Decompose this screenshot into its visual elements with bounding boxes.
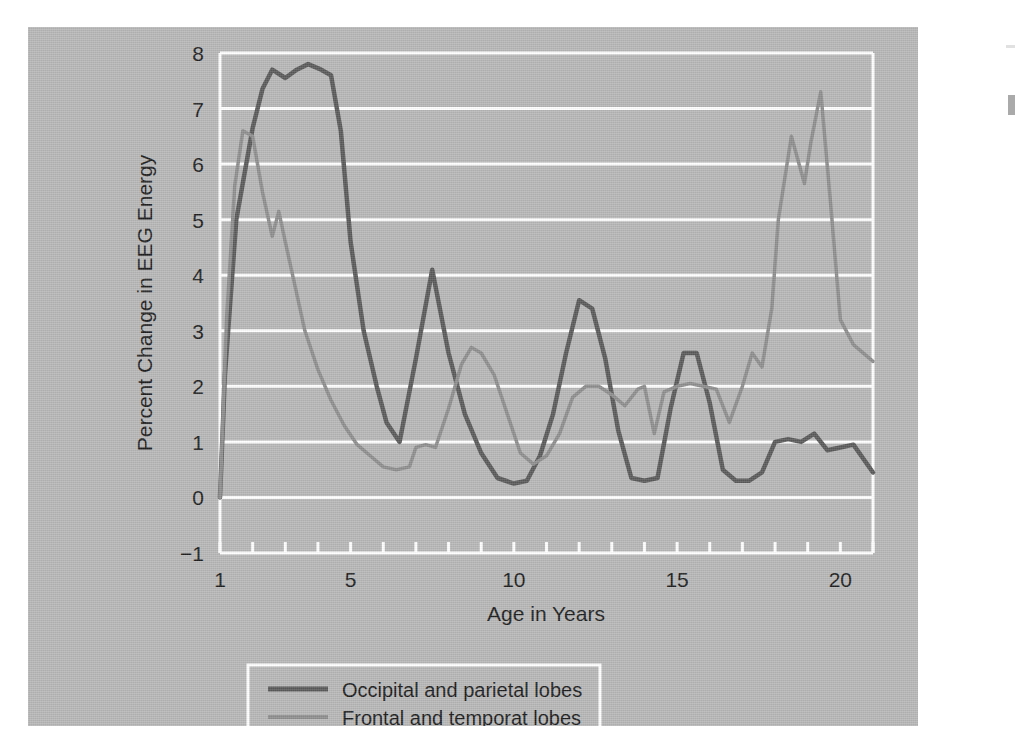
y-tick-label: 2: [192, 375, 204, 398]
x-axis-ticks: [220, 542, 873, 553]
plot-background: [220, 53, 873, 553]
x-tick-label: 20: [829, 568, 852, 591]
x-axis-tick-labels: 15101520: [214, 568, 852, 591]
x-tick-label: 5: [345, 568, 357, 591]
scanned-page: −1012345678 15101520 Age in Years Percen…: [0, 0, 1030, 743]
y-tick-label: 5: [192, 209, 204, 232]
eeg-line-chart: −1012345678 15101520 Age in Years Percen…: [28, 27, 918, 726]
x-axis-title: Age in Years: [487, 602, 605, 625]
figure-panel: −1012345678 15101520 Age in Years Percen…: [28, 27, 918, 726]
y-axis-title: Percent Change in EEG Energy: [133, 154, 156, 451]
legend-items: Occipital and parietal lobesFrontal and …: [268, 679, 582, 726]
y-tick-label: 6: [192, 153, 204, 176]
y-tick-label: −1: [180, 542, 204, 565]
y-tick-label: 4: [192, 264, 204, 287]
legend-label-2: Frontal and temporat lobes: [342, 707, 581, 726]
data-series-group: [220, 64, 873, 497]
y-axis-tick-labels: −1012345678: [180, 42, 204, 565]
y-tick-label: 1: [192, 431, 204, 454]
y-tick-label: 0: [192, 486, 204, 509]
scan-artifact-mark: [1006, 45, 1015, 48]
x-tick-label: 1: [214, 568, 226, 591]
legend-label-1: Occipital and parietal lobes: [342, 679, 582, 701]
x-tick-label: 10: [502, 568, 525, 591]
y-tick-label: 3: [192, 320, 204, 343]
y-tick-label: 8: [192, 42, 204, 65]
legend: Occipital and parietal lobesFrontal and …: [248, 665, 600, 726]
x-tick-label: 15: [665, 568, 688, 591]
axis-frame: [220, 53, 873, 553]
scan-artifact-bar: [1008, 95, 1015, 115]
y-tick-label: 7: [192, 98, 204, 121]
